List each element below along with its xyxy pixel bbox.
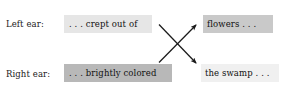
right-ear-label: Right ear:: [6, 69, 50, 79]
dichotic-listening-figure: Left ear: . . . crept out of flowers . .…: [0, 0, 293, 96]
left-ear-label: Left ear:: [6, 19, 44, 29]
left-ear-target-phrase: flowers . . .: [203, 15, 273, 33]
arrow-down-right-icon: [159, 25, 196, 64]
right-ear-source-phrase: . . . brightly colored: [64, 64, 172, 82]
arrow-up-right-icon: [159, 25, 196, 63]
left-ear-source-phrase: . . . crept out of: [64, 15, 152, 33]
right-ear-target-phrase: the swamp . . .: [201, 64, 279, 82]
